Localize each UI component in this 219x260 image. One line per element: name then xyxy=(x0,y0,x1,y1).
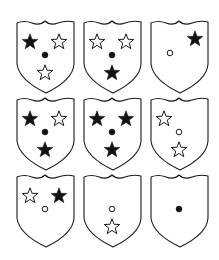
filled-dot-icon xyxy=(109,52,115,58)
shield-icon xyxy=(150,20,210,95)
shield-icon xyxy=(150,174,210,249)
filled-dot-icon xyxy=(42,129,48,135)
hollow-dot-icon xyxy=(176,129,182,135)
shield-r1c2 xyxy=(83,20,143,95)
shield-icon xyxy=(16,174,76,249)
shield-r2c1 xyxy=(16,97,76,172)
filled-dot-icon xyxy=(109,129,115,135)
shield-r2c2 xyxy=(83,97,143,172)
filled-dot-icon xyxy=(42,52,48,58)
hollow-dot-icon xyxy=(42,206,48,212)
shield-r1c1 xyxy=(16,20,76,95)
hollow-dot-icon xyxy=(167,50,173,56)
shield-icon xyxy=(83,97,143,172)
shield-r1c3 xyxy=(150,20,210,95)
filled-dot-icon xyxy=(176,206,182,212)
shield-icon xyxy=(150,97,210,172)
shield-r3c3 xyxy=(150,174,210,249)
shield-r3c2 xyxy=(83,174,143,249)
shield-icon xyxy=(16,97,76,172)
shield-r2c3 xyxy=(150,97,210,172)
shield-outline xyxy=(151,21,208,93)
shield-icon xyxy=(83,20,143,95)
shield-r3c1 xyxy=(16,174,76,249)
shield-icon xyxy=(16,20,76,95)
shield-icon xyxy=(83,174,143,249)
hollow-dot-icon xyxy=(109,206,115,212)
shield-grid xyxy=(0,0,219,260)
